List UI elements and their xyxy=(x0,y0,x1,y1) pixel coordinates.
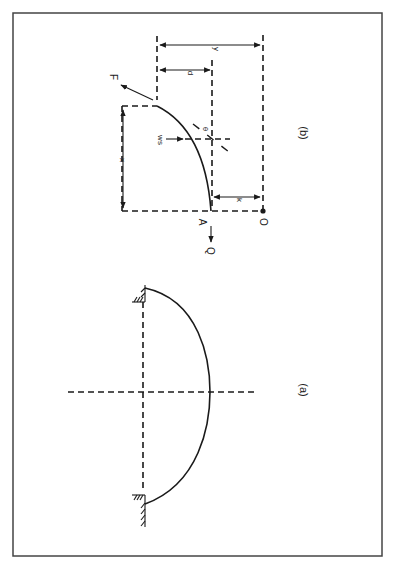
panel-b-labels: y d x k ws θ F A O Q (b) xyxy=(108,47,310,255)
label-q: Q xyxy=(205,247,216,255)
panel-a xyxy=(68,285,256,527)
label-ws: ws xyxy=(156,134,165,145)
label-x: x xyxy=(118,158,127,162)
cable-curve-b xyxy=(157,106,211,211)
label-a: A xyxy=(197,219,208,226)
panel-b xyxy=(121,35,266,242)
panel-a-caption: (a) xyxy=(298,383,310,396)
support-bottom-icon xyxy=(132,495,145,527)
support-top-icon xyxy=(132,285,145,302)
tangent-line xyxy=(193,124,229,152)
label-f: F xyxy=(108,74,119,80)
cable-curve-a xyxy=(145,288,210,504)
panel-b-caption: (b) xyxy=(298,126,310,139)
diagram-canvas: y d x k ws θ F A O Q (b) xyxy=(0,0,393,570)
label-k: k xyxy=(235,198,244,203)
f-force-arrow xyxy=(121,85,153,100)
origin-dot xyxy=(260,208,265,213)
label-theta: θ xyxy=(201,127,210,132)
figure-border xyxy=(13,13,382,556)
label-y: y xyxy=(212,47,221,51)
label-d: d xyxy=(186,71,195,75)
label-o: O xyxy=(258,218,269,226)
